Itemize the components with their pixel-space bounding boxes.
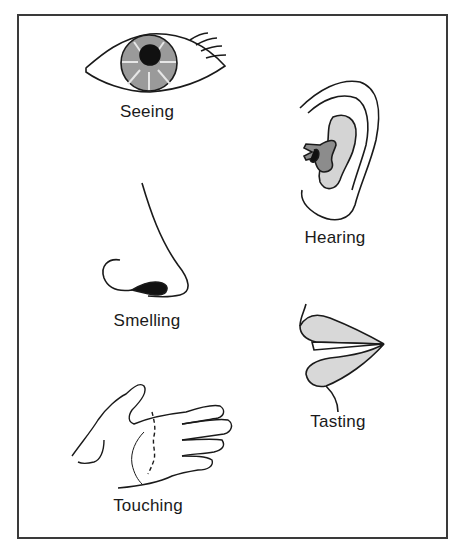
nose-icon [103,183,188,297]
label-touching: Touching [88,496,208,516]
eye-icon [86,33,226,92]
label-hearing: Hearing [275,228,395,248]
senses-diagram [0,0,466,557]
label-tasting: Tasting [278,412,398,432]
hand-icon [72,384,231,488]
label-seeing: Seeing [87,102,207,122]
ear-icon [300,81,379,220]
mouth-icon [300,304,384,412]
label-smelling: Smelling [87,311,207,331]
